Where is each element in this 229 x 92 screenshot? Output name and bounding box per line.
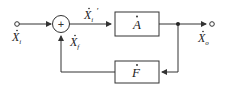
- output-terminal: [210, 22, 215, 27]
- feedback-label: Xf: [69, 35, 80, 51]
- dot-icon: [136, 16, 138, 18]
- input-terminal: [15, 22, 20, 27]
- error-label: Xi′: [83, 6, 99, 24]
- feedback-diagram: + A F Xi Xi′ Xf Xo: [0, 0, 229, 92]
- feedback-line-right: [162, 24, 178, 72]
- dot-icon: [88, 8, 90, 10]
- feedback-block-label: F: [131, 65, 141, 80]
- dot-icon: [16, 30, 18, 32]
- forward-block-label: A: [132, 17, 141, 32]
- dot-icon: [202, 31, 204, 33]
- dot-icon: [74, 35, 76, 37]
- summing-sign: +: [58, 18, 64, 30]
- dot-icon: [136, 64, 138, 66]
- input-label: Xi: [11, 30, 21, 46]
- output-label: Xo: [197, 31, 209, 47]
